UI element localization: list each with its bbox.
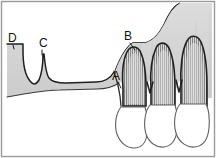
periodontal-bone-level-diagram: D C B A [0,0,216,158]
label-a: A [112,69,120,83]
label-c: C [39,36,48,50]
tooth-roots [123,36,207,106]
tooth-crowns [116,104,210,148]
tooth-crown-3 [175,104,210,147]
label-b: B [124,29,132,43]
tooth-crown-2 [145,105,178,147]
label-d: D [8,31,17,45]
diagram-canvas: D C B A [0,0,216,158]
